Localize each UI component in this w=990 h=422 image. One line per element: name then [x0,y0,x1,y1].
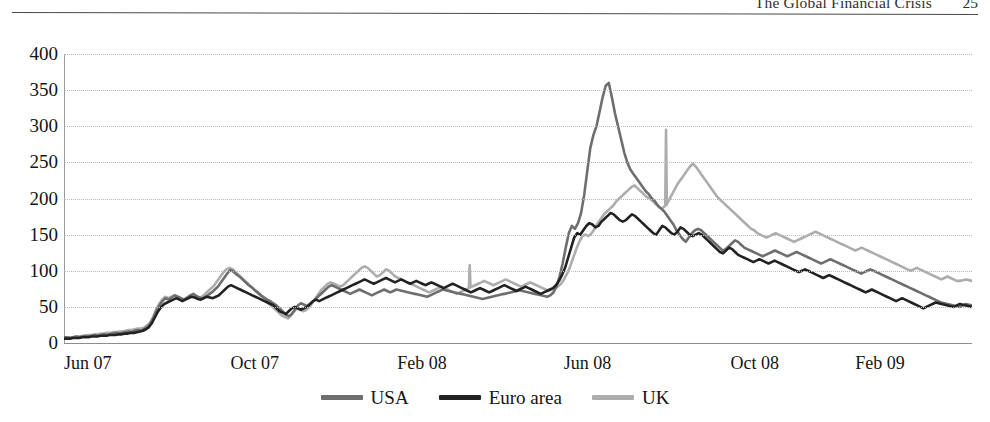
series-spike-uk [469,265,471,288]
page-running-head: The Global Financial Crisis 25 [0,0,990,16]
series-line-euro-area [64,213,972,339]
x-tick-label-feb-09: Feb 09 [855,352,905,374]
y-tick-label-300: 300 [2,116,58,135]
gridline-350 [64,90,972,91]
x-tick-label-oct-08: Oct 08 [730,352,779,374]
legend-item-uk: UK [592,388,669,407]
y-tick-label-150: 150 [2,225,58,244]
legend-item-euro-area: Euro area [439,388,562,407]
y-tick-label-0: 0 [2,333,58,352]
y-tick-label-350: 350 [2,80,58,99]
legend-swatch-icon [592,395,634,400]
y-tick-label-250: 250 [2,152,58,171]
legend-label: UK [642,388,669,407]
y-tick-label-400: 400 [2,44,58,63]
y-tick-label-50: 50 [2,297,58,316]
gridline-400 [64,54,972,55]
gridline-250 [64,162,972,163]
gridline-0 [64,343,972,344]
gridline-200 [64,199,972,200]
gridline-50 [64,307,972,308]
x-tick-label-oct-07: Oct 07 [231,352,280,374]
y-tick-label-100: 100 [2,261,58,280]
x-tick-label-feb-08: Feb 08 [397,352,447,374]
legend-swatch-icon [439,395,481,400]
line-chart-figure: 050100150200250300350400 Jun 07Oct 07Feb… [0,30,990,422]
chart-legend: USAEuro areaUK [0,382,990,412]
x-tick-label-jun-08: Jun 08 [564,352,612,374]
header-divider-rule [12,12,978,15]
x-axis-tick-labels: Jun 07Oct 07Feb 08Jun 08Oct 08Feb 09 [64,352,972,378]
gridline-150 [64,235,972,236]
series-line-uk [64,164,972,338]
plot-area [64,54,972,343]
gridline-100 [64,271,972,272]
running-head-title: The Global Financial Crisis [755,0,932,12]
y-axis-tick-labels: 050100150200250300350400 [0,54,58,343]
series-spike-uk [665,130,667,206]
legend-label: Euro area [489,388,562,407]
y-tick-label-200: 200 [2,189,58,208]
legend-swatch-icon [321,395,363,400]
gridline-300 [64,126,972,127]
legend-label: USA [371,388,409,407]
page-number: 25 [963,0,979,12]
x-tick-label-jun-07: Jun 07 [64,352,112,374]
legend-item-usa: USA [321,388,409,407]
